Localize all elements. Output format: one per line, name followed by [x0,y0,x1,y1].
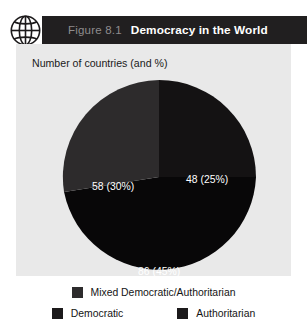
figure-title: Democracy in the World [131,23,268,37]
legend-swatch-authoritarian [177,308,188,319]
legend-item-democratic: Democratic [52,308,124,319]
legend-swatch-democratic [52,308,63,319]
chart-panel: Number of countries (and %) 48 (25%) 58 … [16,44,291,276]
legend-label-democratic: Democratic [71,308,124,319]
legend-label-authoritarian: Authoritarian [196,308,255,319]
legend-row-top: Mixed Democratic/Authoritarian [0,282,307,303]
figure-header-bar: Figure 8.1 Democracy in the World [42,16,307,44]
pie-label-democratic: 86 (45%) [138,266,180,277]
pie-label-mixed: 58 (30%) [92,181,134,192]
pie-slice-authoritarian [159,80,256,177]
legend-swatch-mixed [72,287,83,298]
figure-number: Figure 8.1 [68,24,122,36]
legend-item-mixed: Mixed Democratic/Authoritarian [72,287,236,298]
chart-legend: Mixed Democratic/Authoritarian Democrati… [0,282,307,324]
pie-slice-mixed [63,80,159,192]
figure-container: Figure 8.1 Democracy in the World Number… [0,0,307,335]
chart-subtitle: Number of countries (and %) [32,57,167,69]
legend-item-authoritarian: Authoritarian [177,308,255,319]
legend-row-bottom: Democratic Authoritarian [0,303,307,324]
legend-label-mixed: Mixed Democratic/Authoritarian [91,287,236,298]
figure-header-text: Figure 8.1 Democracy in the World [68,23,268,37]
pie-label-authoritarian: 48 (25%) [186,174,228,185]
globe-icon [8,13,43,48]
